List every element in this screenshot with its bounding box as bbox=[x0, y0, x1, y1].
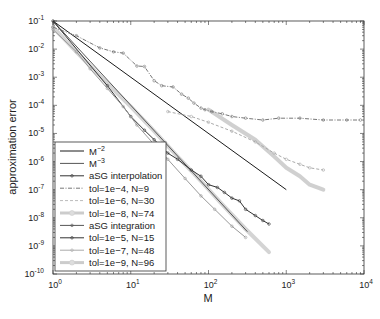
tick-label: 10-10 bbox=[25, 267, 45, 279]
legend-label: tol=1e−4, N=9 bbox=[89, 183, 149, 194]
tick-label: 10-6 bbox=[28, 155, 44, 167]
tick-label: 10-9 bbox=[28, 239, 44, 251]
legend-label: tol=1e−5, N=15 bbox=[89, 232, 154, 243]
tick-label: 10-1 bbox=[28, 14, 44, 26]
tick-label: 10-2 bbox=[28, 42, 44, 54]
tick-label: 101 bbox=[126, 278, 140, 290]
tick-label: 10-7 bbox=[28, 183, 44, 195]
tick-label: 10-8 bbox=[28, 211, 44, 223]
legend-label: aSG integration bbox=[89, 220, 155, 231]
tick-label: 10-3 bbox=[28, 70, 44, 82]
legend: M−2M−3aSG interpolationtol=1e−4, N=9tol=… bbox=[55, 142, 166, 271]
legend-label: tol=1e−8, N=74 bbox=[89, 208, 154, 219]
tick-label: 100 bbox=[48, 278, 62, 290]
legend-label: tol=1e−9, N=96 bbox=[89, 257, 154, 268]
legend-label: aSG interpolation bbox=[89, 170, 162, 181]
tick-label: 103 bbox=[281, 278, 295, 290]
tick-label: 10-5 bbox=[28, 126, 44, 138]
y-axis-label: approximation error bbox=[6, 99, 18, 195]
tick-label: 10-4 bbox=[28, 98, 44, 110]
legend-label: tol=1e−6, N=30 bbox=[89, 195, 154, 206]
tick-label: 102 bbox=[204, 278, 218, 290]
x-tick-labels: 100101102103104 bbox=[48, 278, 373, 290]
y-tick-labels: 10-110-210-310-410-510-610-710-810-910-1… bbox=[25, 14, 45, 279]
legend-label: tol=1e−7, N=48 bbox=[89, 245, 154, 256]
x-axis-label: M bbox=[203, 292, 212, 304]
tick-label: 104 bbox=[359, 278, 373, 290]
chart: 100101102103104 10-110-210-310-410-510-6… bbox=[0, 0, 380, 319]
